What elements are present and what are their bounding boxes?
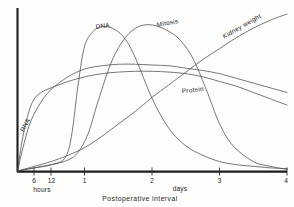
chart-svg: 6 12 1 2 3 4 hours days Postoperative in… — [0, 0, 294, 207]
x-tick-label-4d: 4 — [284, 177, 288, 184]
chart-figure: 6 12 1 2 3 4 hours days Postoperative in… — [0, 0, 294, 207]
x-axis-title: Postoperative interval — [102, 195, 177, 203]
x-tick-label-12h: 12 — [48, 177, 56, 184]
chart-background — [0, 0, 294, 207]
x-tick-label-3d: 3 — [218, 177, 222, 184]
x-tick-label-6h: 6 — [32, 177, 36, 184]
x-tick-label-1d: 1 — [83, 177, 87, 184]
x-tick-label-2d: 2 — [150, 177, 154, 184]
x-unit-label-days: days — [173, 185, 188, 193]
x-unit-label-hours: hours — [33, 186, 51, 193]
